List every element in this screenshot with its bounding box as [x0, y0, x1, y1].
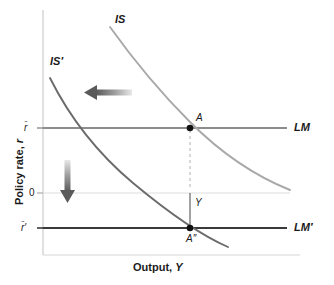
tick-label-r-bar-prime: r̄′ — [21, 223, 26, 233]
point-a-label: A — [196, 113, 203, 123]
output-marker-label: Y — [195, 198, 202, 208]
leftward-shift-arrow — [84, 85, 132, 100]
lm-prime-line-label: LM′ — [294, 222, 313, 233]
downward-shift-arrow — [60, 160, 75, 203]
is-curve — [110, 27, 290, 190]
tick-label-r-bar: r̄ — [24, 123, 27, 133]
point-a-double-prime-marker — [187, 225, 194, 232]
x-axis-title-main: Output, — [133, 261, 175, 273]
y-axis-title-variable: r — [13, 139, 25, 143]
x-axis-title-variable: Y — [175, 261, 182, 273]
point-a-double-prime-label: A″ — [186, 234, 196, 244]
is-curve-label: IS — [115, 14, 125, 25]
plot-canvas — [0, 0, 334, 285]
tick-label-zero: 0 — [29, 188, 35, 198]
x-axis-title: Output, Y — [133, 262, 183, 273]
is-prime-curve-label: IS′ — [50, 56, 63, 67]
y-axis-title: Policy rate, r — [14, 139, 25, 205]
is-prime-curve — [50, 78, 228, 247]
point-a-marker — [187, 125, 194, 132]
y-axis-title-main: Policy rate, — [13, 143, 25, 205]
lm-line-label: LM — [294, 122, 310, 133]
is-lm-diagram: Policy rate, r Output, Y r̄ 0 r̄′ IS IS′… — [0, 0, 334, 285]
